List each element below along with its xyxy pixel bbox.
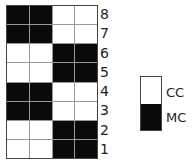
legend-swatch-cc [141,77,161,104]
chart-cell [7,121,29,139]
row-numbers: 87654321 [100,5,109,159]
chart-cell [30,121,52,139]
chart-cell [53,140,75,158]
chart-cell [75,121,97,139]
row-number-label: 6 [100,44,109,63]
chart-cell [75,44,97,62]
chart-cell [30,102,52,120]
chart-cell [7,44,29,62]
chart-cell [30,140,52,158]
chart-cell [7,25,29,43]
knitting-chart-grid [6,5,98,159]
row-number-label: 8 [100,5,109,24]
row-number-label: 4 [100,82,109,101]
chart-cell [7,63,29,81]
chart-cell [75,6,97,24]
chart-cell [75,25,97,43]
row-number-label: 5 [100,63,109,82]
row-number-label: 1 [100,140,109,159]
chart-cell [53,102,75,120]
chart-cell [7,6,29,24]
chart-cell [75,83,97,101]
row-number-label: 7 [100,24,109,43]
chart-cell [53,121,75,139]
chart-cell [53,44,75,62]
chart-cell [30,25,52,43]
chart-cell [53,83,75,101]
row-number-label: 3 [100,101,109,120]
chart-cell [53,63,75,81]
chart-cell [75,102,97,120]
row-number-label: 2 [100,121,109,140]
chart-cell [7,140,29,158]
chart-cell [75,140,97,158]
chart-cell [30,6,52,24]
chart-cell [30,44,52,62]
chart-cell [53,6,75,24]
legend-swatch-mc [141,104,161,131]
chart-cell [75,63,97,81]
chart-cell [7,102,29,120]
chart-cell [30,63,52,81]
chart-cell [30,83,52,101]
legend-label-cc: CC [166,85,184,100]
legend-swatch-box [140,76,162,131]
chart-cell [7,83,29,101]
chart-cell [53,25,75,43]
legend-label-mc: MC [166,110,186,125]
